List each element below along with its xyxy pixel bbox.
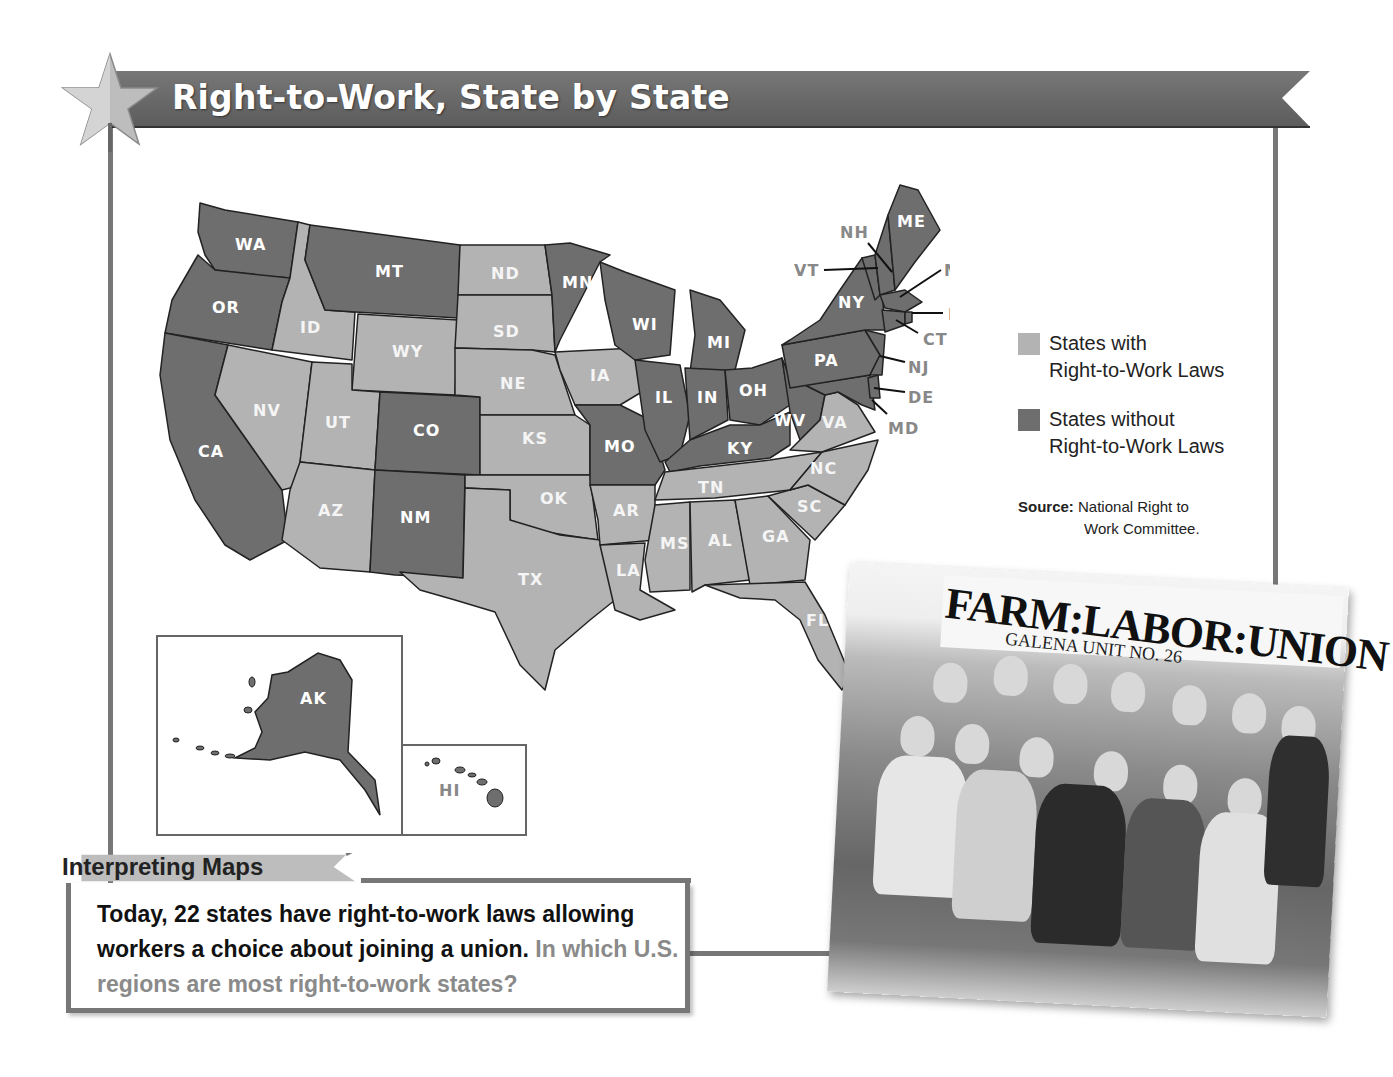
label-MI: MI — [707, 333, 731, 352]
label-SC: SC — [797, 497, 822, 516]
label-GA: GA — [762, 527, 790, 546]
label-MT: MT — [375, 262, 404, 281]
label-NY: NY — [838, 293, 865, 312]
label-OR: OR — [212, 298, 240, 317]
interpreting-maps-box: Interpreting Maps Today, 22 states have … — [62, 853, 694, 1015]
state-RI[interactable] — [905, 312, 912, 324]
label-HI: HI — [439, 781, 460, 800]
label-MO: MO — [604, 437, 636, 456]
label-NM: NM — [400, 508, 431, 527]
legend-item-right-to-work: States with Right-to-Work Laws — [1018, 330, 1224, 384]
legend-label: Right-to-Work Laws — [1049, 433, 1224, 460]
label-NE: NE — [500, 374, 526, 393]
label-MA: MA — [944, 261, 950, 280]
label-TX: TX — [518, 570, 543, 589]
label-SD: SD — [493, 322, 520, 341]
label-MD: MD — [888, 419, 919, 438]
state-ME[interactable] — [888, 185, 940, 290]
label-CO: CO — [413, 421, 440, 440]
label-NH: NH — [840, 223, 869, 242]
label-LA: LA — [616, 561, 641, 580]
legend-label: States with — [1049, 330, 1224, 357]
label-MN: MN — [562, 273, 593, 292]
label-AK: AK — [300, 689, 327, 708]
label-WI: WI — [632, 315, 658, 334]
label-UT: UT — [325, 413, 351, 432]
hawaii-inset — [402, 745, 526, 835]
state-DE[interactable] — [868, 375, 880, 398]
us-map: WA OR CA ID NV MT WY UT AZ CO NM ND SD N… — [150, 180, 950, 840]
label-CT: CT — [923, 330, 948, 349]
label-VA: VA — [822, 413, 848, 432]
label-KY: KY — [727, 439, 753, 458]
label-IL: IL — [655, 388, 673, 407]
label-IN: IN — [697, 388, 718, 407]
label-RI: RI — [948, 305, 950, 324]
legend-label: Right-to-Work Laws — [1049, 357, 1224, 384]
page-title: Right-to-Work, State by State — [172, 78, 730, 117]
label-NV: NV — [253, 401, 281, 420]
source-text: National Right to — [1078, 498, 1189, 515]
label-FL: FL — [806, 611, 829, 630]
label-MS: MS — [660, 534, 689, 553]
state-MI[interactable] — [690, 290, 745, 372]
label-AZ: AZ — [318, 501, 344, 520]
source-note: Source: National Right to Work Committee… — [1018, 496, 1200, 540]
state-WI[interactable] — [600, 262, 675, 360]
star-icon — [60, 52, 160, 152]
label-ME: ME — [897, 212, 926, 231]
label-WA: WA — [235, 235, 266, 254]
label-NC: NC — [810, 459, 837, 478]
label-IA: IA — [590, 366, 610, 385]
farm-labor-union-photo: FARM:LABOR:UNION GALENA UNIT NO. 26 — [827, 562, 1349, 1018]
source-label: Source: — [1018, 498, 1074, 515]
legend-swatch-dark — [1018, 409, 1040, 431]
interpreting-heading: Interpreting Maps — [62, 853, 263, 881]
state-MN[interactable] — [545, 243, 610, 352]
source-text-cont: Work Committee. — [1018, 518, 1200, 540]
label-CA: CA — [198, 442, 224, 461]
legend-label: States without — [1049, 406, 1224, 433]
label-WV: WV — [774, 411, 806, 430]
label-OK: OK — [540, 489, 568, 508]
state-CT[interactable] — [882, 310, 905, 332]
legend-swatch-light — [1018, 333, 1040, 355]
label-WY: WY — [392, 342, 423, 361]
label-KS: KS — [522, 429, 548, 448]
label-TN: TN — [698, 478, 724, 497]
legend-item-non-right-to-work: States without Right-to-Work Laws — [1018, 406, 1224, 460]
state-MA[interactable] — [880, 290, 922, 312]
label-VT: VT — [794, 261, 819, 280]
label-ID: ID — [300, 318, 321, 337]
map-legend: States with Right-to-Work Laws States wi… — [1018, 330, 1224, 482]
label-PA: PA — [814, 351, 839, 370]
label-ND: ND — [491, 264, 520, 283]
label-AR: AR — [613, 501, 640, 520]
label-OH: OH — [739, 381, 768, 400]
label-DE: DE — [908, 388, 934, 407]
label-AL: AL — [708, 531, 733, 550]
state-FL[interactable] — [705, 582, 850, 690]
label-NJ: NJ — [908, 358, 929, 377]
